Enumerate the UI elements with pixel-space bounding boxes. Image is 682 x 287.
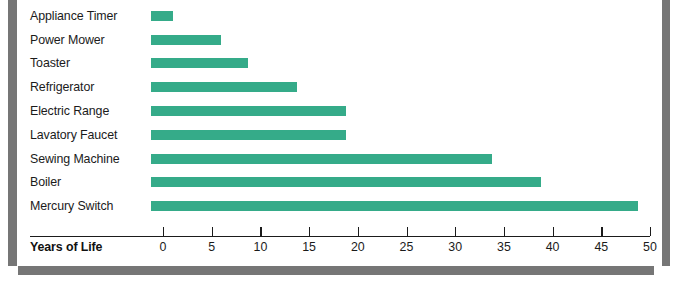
x-axis-tick-label: 10 bbox=[253, 240, 267, 254]
x-axis-tick bbox=[212, 227, 213, 236]
x-axis-tick-label: 50 bbox=[643, 240, 657, 254]
bar-track bbox=[151, 75, 658, 99]
x-axis-tick bbox=[553, 227, 554, 236]
bar-track bbox=[151, 123, 658, 147]
chart-row: Appliance Timer bbox=[18, 4, 658, 28]
page-edge-bottom-rule bbox=[18, 266, 654, 275]
bar-track bbox=[151, 52, 658, 76]
chart-row: Sewing Machine bbox=[18, 147, 658, 171]
bar bbox=[151, 154, 492, 164]
years-of-life-bar-chart: Appliance TimerPower MowerToasterRefrige… bbox=[18, 4, 658, 262]
x-axis-tick bbox=[601, 227, 602, 236]
x-axis-title: Years of Life bbox=[30, 240, 102, 254]
chart-row: Power Mower bbox=[18, 28, 658, 52]
x-axis-tick-label: 5 bbox=[208, 240, 215, 254]
category-label: Electric Range bbox=[18, 104, 151, 118]
x-axis-tick-label: 30 bbox=[448, 240, 462, 254]
bar bbox=[151, 11, 173, 21]
x-axis-tick bbox=[650, 227, 651, 236]
bar-track bbox=[151, 4, 658, 28]
x-axis-tick bbox=[504, 227, 505, 236]
category-label: Power Mower bbox=[18, 33, 151, 47]
page-edge-left-rule bbox=[8, 0, 17, 266]
category-label: Toaster bbox=[18, 56, 151, 70]
category-label: Sewing Machine bbox=[18, 152, 151, 166]
chart-row: Toaster bbox=[18, 52, 658, 76]
category-label: Mercury Switch bbox=[18, 199, 151, 213]
bar-track bbox=[151, 171, 658, 195]
chart-row: Boiler bbox=[18, 171, 658, 195]
x-axis-tick-label: 25 bbox=[400, 240, 414, 254]
x-axis-tick bbox=[455, 227, 456, 236]
bar bbox=[151, 177, 541, 187]
x-axis-tick-label: 45 bbox=[594, 240, 608, 254]
chart-row: Electric Range bbox=[18, 99, 658, 123]
bar bbox=[151, 201, 638, 211]
bar bbox=[151, 106, 346, 116]
chart-row: Lavatory Faucet bbox=[18, 123, 658, 147]
x-axis-tick-label: 35 bbox=[497, 240, 511, 254]
bar-track bbox=[151, 28, 658, 52]
bar bbox=[151, 82, 297, 92]
bar bbox=[151, 35, 221, 45]
x-axis-tick-label: 15 bbox=[302, 240, 316, 254]
x-axis-tick-label: 20 bbox=[351, 240, 365, 254]
x-axis-tick bbox=[407, 227, 408, 236]
x-axis-line bbox=[30, 236, 650, 237]
x-axis-tick-label: 0 bbox=[160, 240, 167, 254]
category-label: Boiler bbox=[18, 175, 151, 189]
x-axis-tick bbox=[309, 227, 310, 236]
page-edge-right-rule bbox=[662, 0, 670, 266]
chart-page: Appliance TimerPower MowerToasterRefrige… bbox=[0, 0, 682, 287]
bar bbox=[151, 58, 248, 68]
bar bbox=[151, 130, 346, 140]
category-label: Lavatory Faucet bbox=[18, 128, 151, 142]
category-label: Appliance Timer bbox=[18, 9, 151, 23]
chart-row: Mercury Switch bbox=[18, 194, 658, 218]
bar-track bbox=[151, 147, 658, 171]
chart-row: Refrigerator bbox=[18, 75, 658, 99]
x-axis-tick bbox=[163, 227, 164, 236]
x-axis-tick-label: 40 bbox=[546, 240, 560, 254]
x-axis-tick bbox=[358, 227, 359, 236]
bar-track bbox=[151, 99, 658, 123]
x-axis-tick bbox=[260, 227, 261, 236]
bar-track bbox=[151, 194, 658, 218]
category-label: Refrigerator bbox=[18, 80, 151, 94]
x-axis: Years of Life 05101520253035404550 bbox=[18, 219, 658, 262]
chart-plot-area: Appliance TimerPower MowerToasterRefrige… bbox=[18, 4, 658, 219]
